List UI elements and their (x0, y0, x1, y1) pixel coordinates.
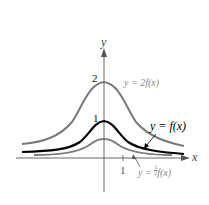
annotation-2f-func: f(x) (145, 77, 159, 88)
y-tick-2-label: 2 (92, 73, 98, 84)
annotation-half-prefix: y = (138, 167, 154, 178)
x-tick-1-label: 1 (120, 165, 126, 176)
y-axis-label: y (101, 36, 106, 48)
chart-plot (0, 0, 209, 205)
annotation-f: y = f(x) (150, 120, 186, 132)
arrow-f (146, 134, 156, 146)
x-axis-label: x (192, 151, 197, 163)
curve-half-f (34, 139, 172, 155)
x-axis-arrow-icon (181, 155, 190, 161)
annotation-half-func: f(x) (157, 167, 171, 178)
y-tick-1-label: 1 (93, 113, 99, 124)
annotation-half-f: y = 12f(x) (138, 165, 171, 178)
curve-2f (22, 82, 184, 146)
annotation-2f: y = 2f(x) (124, 78, 159, 88)
arrow-half-f-head-icon (132, 154, 136, 159)
y-axis-arrow-icon (101, 48, 107, 57)
annotation-2f-prefix: y = 2 (124, 77, 145, 88)
